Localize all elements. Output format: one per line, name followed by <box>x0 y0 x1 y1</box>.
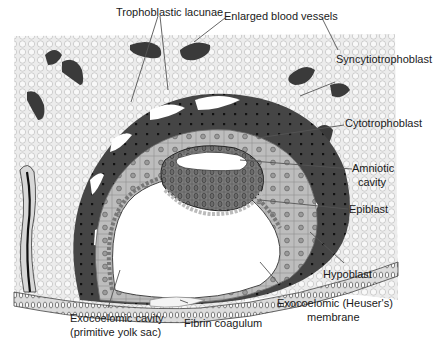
label-hypoblast: Hypoblast <box>323 268 372 280</box>
label-trophoblastic-lacunae: Trophoblastic lacunae <box>116 6 223 18</box>
label-syncytiotrophoblast: Syncytiotrophoblast <box>336 53 432 65</box>
amniotic-cavity <box>176 152 247 171</box>
label-exocoelomic-cavity-1: Exocoelomic cavity <box>70 312 164 324</box>
label-exocoelomic-membrane-1: Exocoelomic (Heuser's) <box>277 297 393 309</box>
label-exocoelomic-cavity-2: (primitive yolk sac) <box>70 326 161 338</box>
label-enlarged-blood-vessels: Enlarged blood vessels <box>224 10 338 22</box>
label-exocoelomic-membrane-2: membrane <box>307 311 360 323</box>
label-amniotic-cavity-2: cavity <box>358 176 386 188</box>
label-fibrin-coagulum: Fibrin coagulum <box>184 317 262 329</box>
label-cytotrophoblast: Cytotrophoblast <box>345 117 422 129</box>
label-amniotic-cavity-1: Amniotic <box>352 162 394 174</box>
embryo-diagram: Trophoblastic lacunae Enlarged blood ves… <box>0 0 439 343</box>
label-epiblast: Epiblast <box>349 203 388 215</box>
